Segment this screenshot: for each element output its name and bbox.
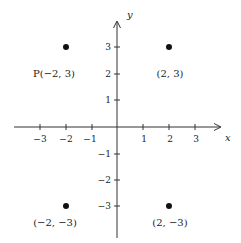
point-label-2-neg3: (2, −3) [152,217,187,228]
y-tick-label: −3 [98,201,112,211]
point-label-neg2-neg3: (−2, −3) [33,217,77,228]
y-tick-label: 2 [105,69,111,79]
x-tick-label: 2 [167,134,173,144]
x-tick-label: 3 [193,134,199,144]
point-label-2-3: (2, 3) [157,68,184,79]
x-tick-label: −3 [33,134,47,144]
coordinate-plane: x y −3 −2 −1 1 2 3 3 2 1 −1 −2 −3 P(−2, … [0,0,241,243]
y-tick-label: 3 [105,42,111,52]
point-neg2-neg3 [63,203,69,209]
x-tick-label: −2 [59,134,72,144]
point-2-3 [166,44,172,50]
x-tick-label: 1 [141,134,147,144]
y-tick-label: 1 [105,95,111,105]
y-tick-label: −2 [98,175,111,185]
x-tick-label: −1 [83,134,96,144]
y-tick-label: −1 [98,149,111,159]
point-p [63,44,69,50]
x-axis-label: x [225,132,231,143]
point-label-p: P(−2, 3) [33,68,75,79]
y-axis-label: y [126,9,133,20]
point-2-neg3 [166,203,172,209]
